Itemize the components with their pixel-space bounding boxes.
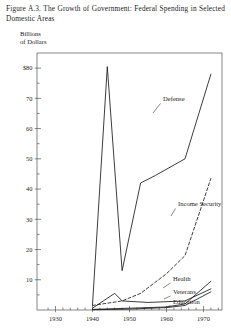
x-tick-label: 1960 [160, 315, 173, 322]
axis-ticks [35, 68, 219, 312]
y-tick-label: 20 [26, 246, 32, 253]
series-leader-veterans [164, 296, 171, 299]
series-label-education: Education [173, 298, 200, 305]
y-tick-label: 50 [26, 155, 32, 162]
y-tick-label: 70 [26, 95, 32, 102]
y-tick-label: 60 [26, 125, 32, 132]
y-tick-label: 40 [26, 185, 32, 192]
line-chart: 10203040506070$8019301940195019601970 De… [0, 0, 231, 335]
series-label-income-security: Income Security [178, 200, 222, 207]
series-label-health: Health [173, 275, 191, 282]
x-tick-label: 1970 [197, 315, 210, 322]
series-line-health [93, 281, 211, 309]
series-leader-income-security [171, 209, 176, 217]
data-series [93, 67, 211, 310]
y-tick-label: 30 [26, 216, 32, 223]
y-tick-label: 10 [26, 276, 32, 283]
series-label-veterans: Veterans [173, 288, 196, 295]
plot-frame [37, 53, 222, 310]
x-tick-label: 1950 [123, 315, 136, 322]
series-label-defense: Defense [163, 95, 185, 102]
series-leader-health [163, 283, 171, 288]
series-leader-defense [153, 104, 161, 114]
x-tick-label: 1940 [86, 315, 99, 322]
series-line-income-security [93, 178, 211, 305]
x-tick-label: 1930 [49, 315, 62, 322]
chart-container: 10203040506070$8019301940195019601970 De… [0, 0, 231, 335]
series-line-defense [93, 67, 211, 305]
y-tick-label: $80 [23, 64, 33, 71]
